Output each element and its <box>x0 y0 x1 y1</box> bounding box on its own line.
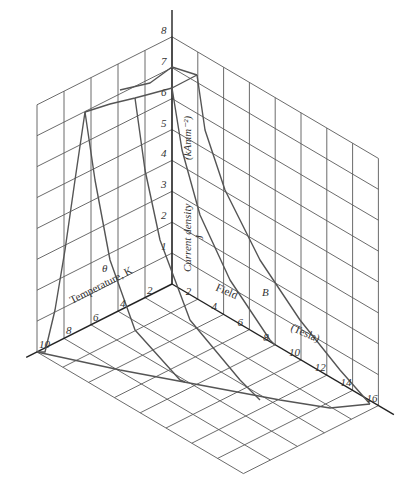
current-density-tick: 1 <box>161 240 167 252</box>
temperature-tick: 4 <box>120 297 126 309</box>
floor-gridline-b <box>140 345 275 413</box>
axes <box>26 10 394 415</box>
field-tick: 10 <box>289 346 301 358</box>
floor-gridline-b <box>192 375 327 443</box>
current-density-tick: 7 <box>161 55 167 67</box>
left-temp-curve-a <box>37 112 85 352</box>
current-density-tick: 3 <box>160 178 167 190</box>
floor-gridline-b <box>63 299 198 367</box>
field-label: Field <box>214 281 240 301</box>
current-density-tick: 6 <box>161 86 167 98</box>
critical-surface-diagram: 12345678246810246810121416 Current densi… <box>0 0 402 496</box>
floor-gridline-b <box>243 406 378 474</box>
temperature-tick: 2 <box>147 284 153 296</box>
B0-temperature-ridge <box>85 88 172 112</box>
left-wall-horizontal-gridline <box>37 99 172 167</box>
field-tick: 8 <box>263 331 269 343</box>
current-density-tick: 2 <box>161 209 167 221</box>
left-wall-horizontal-gridline <box>37 130 172 198</box>
temperature-tick: 8 <box>66 324 72 336</box>
current-density-label: Current density <box>181 204 193 272</box>
left-wall-horizontal-gridline <box>37 68 172 136</box>
upper-ridge <box>120 67 197 90</box>
floor-gridline-b <box>166 360 301 428</box>
temperature-tick: 6 <box>93 311 99 323</box>
field-tick: 16 <box>366 392 378 404</box>
T0-field-ridge <box>172 75 197 88</box>
field-tick: 14 <box>341 376 353 388</box>
current-density-symbol: J <box>193 234 205 240</box>
current-density-tick: 4 <box>161 147 167 159</box>
current-density-unit: (kAmm⁻²) <box>181 116 194 160</box>
field-tick: 6 <box>237 316 243 328</box>
field-axis <box>172 284 394 415</box>
field-tick: 12 <box>315 361 327 373</box>
left-wall-horizontal-gridline <box>37 37 172 105</box>
field-tick: 2 <box>186 285 192 297</box>
floor-gridline-b <box>114 330 249 398</box>
current-density-tick: 5 <box>161 117 167 129</box>
field-tick: 4 <box>212 300 218 312</box>
field-symbol: B <box>262 286 269 298</box>
left-wall-horizontal-gridline <box>37 160 172 228</box>
temperature-tick: 10 <box>39 338 51 350</box>
field-unit: (Tesla) <box>289 321 322 345</box>
floor-gridline-b <box>89 314 224 382</box>
current-density-tick: 8 <box>161 24 167 36</box>
temperature-symbol: θ <box>102 262 108 274</box>
